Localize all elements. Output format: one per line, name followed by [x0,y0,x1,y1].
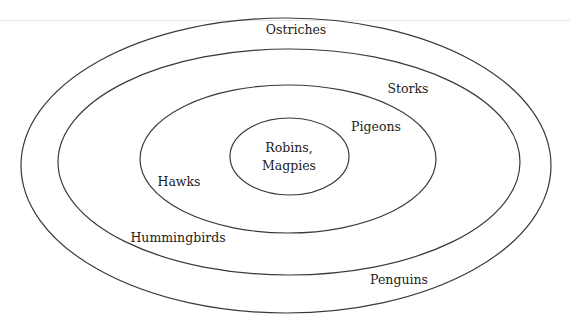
label-center: Robins, Magpies [262,139,316,175]
label-ostriches: Ostriches [266,24,327,37]
label-magpies: Magpies [262,157,316,175]
label-storks: Storks [387,83,428,96]
label-hummingbirds: Hummingbirds [130,232,225,245]
label-robins: Robins, [262,139,316,157]
label-pigeons: Pigeons [351,121,401,134]
label-penguins: Penguins [370,274,428,287]
label-hawks: Hawks [157,176,200,189]
